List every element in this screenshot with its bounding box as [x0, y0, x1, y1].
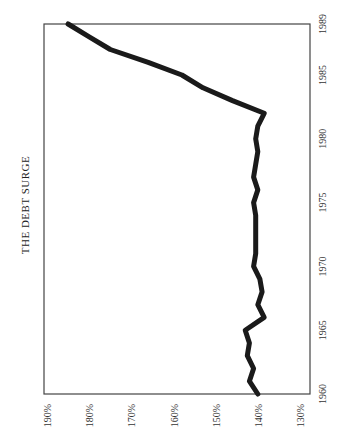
year-tick-label: 1989: [317, 14, 328, 34]
year-tick-label: 1970: [317, 256, 328, 276]
year-tick-label: 1965: [317, 320, 328, 340]
year-tick-label: 1985: [317, 65, 328, 85]
year-tick-label: 1960: [317, 384, 328, 404]
year-tick-label: 1980: [317, 129, 328, 149]
value-tick-label: 170%: [126, 404, 137, 427]
plot-frame: [44, 24, 310, 394]
value-tick-label: 160%: [169, 404, 180, 427]
debt-line: [68, 24, 264, 394]
year-axis-ticks: 1960196519701975198019851989: [317, 14, 328, 404]
year-tick-label: 1975: [317, 193, 328, 213]
value-axis-ticks: 190%180%170%160%150%140%130%: [42, 404, 306, 427]
value-tick-label: 130%: [295, 404, 306, 427]
value-tick-label: 180%: [84, 404, 95, 427]
chart-svg: 190%180%170%160%150%140%130% 19601965197…: [0, 0, 349, 446]
value-tick-label: 150%: [211, 404, 222, 427]
chart-title: THE DEBT SURGE: [19, 156, 31, 254]
value-tick-label: 190%: [42, 404, 53, 427]
value-tick-label: 140%: [253, 404, 264, 427]
